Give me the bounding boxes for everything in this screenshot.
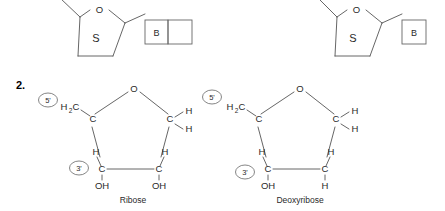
deoxyribose-3prime-label: 3' [242, 168, 248, 177]
deoxyribose-bond-o-c1 [306, 92, 334, 114]
left-ring-bond-c4-o [80, 10, 90, 17]
left-ring-bond-o-c1 [109, 10, 125, 23]
ribose-c2-substituent: OH [152, 180, 166, 191]
ribose-ch2-h-label: H [61, 101, 68, 112]
right-ring-bond-c1-c2 [370, 23, 382, 56]
ribose-ring-oxygen-label: O [130, 83, 137, 94]
ribose-ch2-carbon-label: C [73, 101, 80, 112]
deoxyribose-5prime-label: 5' [209, 93, 215, 102]
deoxyribose-bond-c1-h2 [341, 124, 349, 129]
left-base-label: B [153, 28, 159, 38]
diagram-page: S O B S O B 2. 5' H 2 C [0, 0, 445, 211]
question-number: 2. [16, 79, 25, 91]
ribose-c3-hydrogen: H [93, 146, 100, 157]
left-ring-bond-c1-c2 [113, 23, 125, 56]
deoxyribose-c1-hydrogen-2: H [352, 123, 359, 134]
right-base-bond [382, 14, 402, 23]
right-ring-bond-c4-o [337, 10, 347, 17]
right-5prime-bond [318, 0, 337, 17]
nucleotide-left: S O B [60, 0, 192, 56]
ribose-c1-hydrogen-1: H [186, 105, 193, 116]
ribose-bond-o-c1 [140, 92, 168, 114]
deoxyribose-c2-hydrogen: H [328, 146, 335, 157]
ribose-c2-hydrogen: H [162, 146, 169, 157]
deoxyribose-c2-label: C [322, 163, 329, 174]
sugar-structures-svg: S O B S O B 2. 5' H 2 C [0, 0, 445, 211]
ribose-bond-c1-h1 [175, 112, 183, 117]
deoxyribose-c1-hydrogen-1: H [352, 105, 359, 116]
left-sugar-label: S [92, 32, 99, 44]
ribose-c4-label: C [90, 113, 97, 124]
deoxyribose-ch2-carbon-label: C [239, 101, 246, 112]
left-ring-oxygen-label: O [96, 4, 103, 15]
ribose-c1-label: C [167, 113, 174, 124]
left-5prime-bond [60, 0, 80, 17]
right-ring-bond-c3-c4 [335, 17, 337, 56]
deoxyribose-c3-hydrogen: H [259, 146, 266, 157]
deoxyribose-ch2-h-label: H [227, 101, 234, 112]
deoxyribose-c4-label: C [256, 113, 263, 124]
ribose-caption: Ribose [120, 195, 147, 205]
right-ring-bond-o-c1 [366, 10, 382, 23]
right-ring-oxygen-label: O [353, 4, 360, 15]
deoxyribose-c1-label: C [333, 113, 340, 124]
deoxyribose-bond-c4-o [261, 92, 294, 114]
ribose-c3-substituent: OH [95, 180, 109, 191]
deoxyribose-structure: 5' H 2 C C O C H H H H 3' C C [203, 83, 359, 205]
ribose-bond-c1-h2 [175, 124, 183, 129]
nucleotide-right: S O B [318, 0, 426, 56]
ribose-5prime-label: 5' [45, 96, 51, 105]
deoxyribose-ring-oxygen-label: O [296, 83, 303, 94]
deoxyribose-c3-substituent: OH [261, 180, 275, 191]
left-ring-bond-c3-c4 [78, 17, 80, 56]
ribose-c3-label: C [99, 163, 106, 174]
left-base-bond [125, 14, 145, 23]
deoxyribose-c3-label: C [265, 163, 272, 174]
ribose-bond-c4-o [95, 92, 128, 114]
deoxyribose-c2-substituent: H [322, 180, 329, 191]
ribose-c1-hydrogen-2: H [186, 123, 193, 134]
deoxyribose-bond-c1-h1 [341, 112, 349, 117]
deoxyribose-caption: Deoxyribose [276, 195, 324, 205]
right-base-label: B [411, 28, 417, 38]
ribose-structure: 5' H 2 C C O C H H [39, 83, 193, 205]
left-base-box-compartment-2 [168, 20, 192, 44]
ribose-c2-label: C [156, 163, 163, 174]
right-sugar-label: S [349, 32, 356, 44]
ribose-3prime-label: 3' [76, 164, 82, 173]
